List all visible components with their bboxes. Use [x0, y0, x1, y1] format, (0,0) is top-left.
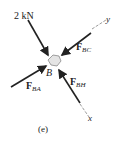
node-b-label: B: [46, 67, 52, 78]
caption: (e): [38, 124, 48, 134]
free-body-diagram: [0, 0, 118, 146]
load-label: 2 kN: [14, 10, 34, 21]
load-arrow: [28, 20, 48, 55]
y-axis: [92, 20, 106, 29]
fba-label: FBA: [26, 80, 41, 93]
node-b: [48, 55, 61, 66]
y-axis-label: y: [106, 14, 110, 24]
fbh-label: FBH: [70, 76, 85, 89]
x-axis-label: x: [88, 113, 92, 123]
fbc-label: FBC: [76, 41, 91, 54]
